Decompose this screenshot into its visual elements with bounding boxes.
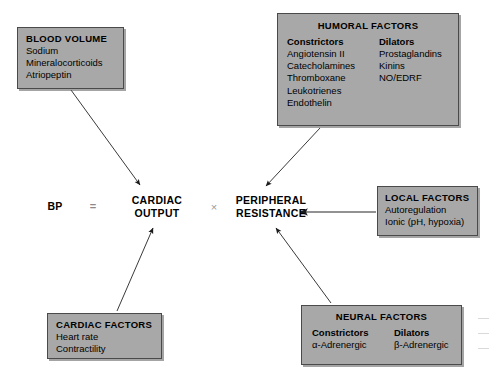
equation-bp-label: BP — [40, 200, 70, 213]
local-factors-item: Autoregulation — [385, 204, 477, 216]
scan-artifact — [478, 318, 489, 319]
humoral-factors-columns: Constrictors Angiotensin II Catecholamin… — [278, 35, 458, 109]
blood-volume-item: Atriopeptin — [26, 69, 123, 81]
humoral-factors-title: HUMORAL FACTORS — [278, 20, 458, 32]
equation-equals-sign: = — [85, 200, 101, 213]
box-humoral-factors: HUMORAL FACTORS Constrictors Angiotensin… — [277, 13, 459, 126]
humoral-dilator-item: Kinins — [379, 60, 442, 72]
blood-volume-item: Mineralocorticoids — [26, 57, 123, 69]
peripheral-resistance-line1: PERIPHERAL — [228, 194, 314, 207]
equation-cardiac-output: CARDIAC OUTPUT — [120, 194, 194, 219]
humoral-constrictor-item: Thromboxane — [287, 72, 379, 84]
neural-dilator-item: β-Adrenergic — [394, 339, 449, 351]
scan-artifact — [478, 333, 489, 334]
neural-factors-title: NEURAL FACTORS — [302, 311, 461, 323]
arrow-blood-volume-to-cardiac-output — [71, 90, 140, 185]
neural-constrictors-heading: Constrictors — [312, 326, 394, 339]
humoral-constrictor-item: Catecholamines — [287, 60, 379, 72]
box-neural-factors: NEURAL FACTORS Constrictors α-Adrenergic… — [301, 305, 462, 365]
scan-artifact — [478, 348, 489, 349]
humoral-constrictor-item: Endothelin — [287, 97, 379, 109]
box-local-factors: LOCAL FACTORS Autoregulation Ionic (pH, … — [377, 186, 478, 236]
humoral-constrictor-item: Angiotensin II — [287, 48, 379, 60]
humoral-constrictors-heading: Constrictors — [287, 35, 379, 48]
arrow-neural-factors-to-peripheral-resistance — [276, 228, 331, 303]
humoral-dilators-column: Dilators Prostaglandins Kinins NO/EDRF — [379, 35, 442, 109]
arrow-cardiac-factors-to-cardiac-output — [117, 228, 153, 311]
humoral-constrictors-column: Constrictors Angiotensin II Catecholamin… — [287, 35, 379, 109]
neural-dilators-heading: Dilators — [394, 326, 449, 339]
box-cardiac-factors: CARDIAC FACTORS Heart rate Contractility — [47, 313, 162, 359]
equation-times-sign: × — [206, 201, 222, 214]
blood-volume-item: Sodium — [26, 45, 123, 57]
neural-constrictors-column: Constrictors α-Adrenergic — [312, 326, 394, 351]
humoral-dilator-item: Prostaglandins — [379, 48, 442, 60]
humoral-constrictor-item: Leukotrienes — [287, 85, 379, 97]
arrow-humoral-factors-to-peripheral-resistance — [266, 128, 320, 186]
local-factors-item: Ionic (pH, hypoxia) — [385, 216, 477, 228]
peripheral-resistance-line2: RESISTANCE — [228, 207, 314, 220]
humoral-dilator-item: NO/EDRF — [379, 72, 442, 84]
equation-peripheral-resistance: PERIPHERAL RESISTANCE — [228, 194, 314, 219]
neural-factors-columns: Constrictors α-Adrenergic Dilators β-Adr… — [302, 326, 461, 351]
humoral-dilators-heading: Dilators — [379, 35, 442, 48]
box-blood-volume: BLOOD VOLUME Sodium Mineralocorticoids A… — [17, 27, 124, 89]
cardiac-factors-item: Contractility — [56, 343, 161, 355]
blood-volume-title: BLOOD VOLUME — [26, 33, 123, 45]
cardiac-factors-item: Heart rate — [56, 331, 161, 343]
neural-constrictor-item: α-Adrenergic — [312, 339, 394, 351]
cardiac-output-line2: OUTPUT — [120, 207, 194, 220]
cardiac-output-line1: CARDIAC — [120, 194, 194, 207]
bp-determinants-diagram: BLOOD VOLUME Sodium Mineralocorticoids A… — [0, 0, 490, 378]
cardiac-factors-title: CARDIAC FACTORS — [56, 319, 161, 331]
local-factors-title: LOCAL FACTORS — [385, 192, 477, 204]
neural-dilators-column: Dilators β-Adrenergic — [394, 326, 449, 351]
